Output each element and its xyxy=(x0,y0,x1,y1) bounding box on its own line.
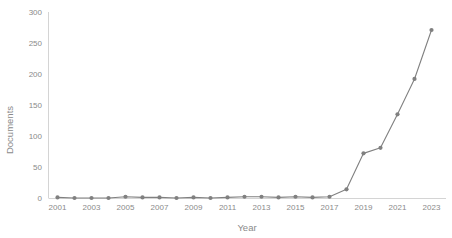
line-chart: 050100150200250300 200120032005200720092… xyxy=(0,0,452,238)
x-tick-label: 2015 xyxy=(287,203,305,212)
data-point xyxy=(140,195,144,199)
y-tick-label: 200 xyxy=(29,70,43,79)
data-point xyxy=(378,146,382,150)
data-point xyxy=(55,195,59,199)
data-point xyxy=(208,196,212,200)
chart-canvas: 050100150200250300 200120032005200720092… xyxy=(0,0,452,238)
x-tick-label: 2007 xyxy=(151,203,169,212)
data-point xyxy=(89,196,93,200)
x-tick-label: 2019 xyxy=(355,203,373,212)
data-point xyxy=(106,196,110,200)
x-tick-label: 2021 xyxy=(389,203,407,212)
data-point xyxy=(361,151,365,155)
data-point xyxy=(293,195,297,199)
data-point xyxy=(327,195,331,199)
x-axis-title: Year xyxy=(237,222,256,233)
x-tick-label: 2009 xyxy=(185,203,203,212)
x-tick-label: 2023 xyxy=(423,203,441,212)
x-tick-label: 2011 xyxy=(219,203,237,212)
data-point xyxy=(412,77,416,81)
data-point xyxy=(395,112,399,116)
y-tick-label: 50 xyxy=(33,163,42,172)
y-axis-title: Documents xyxy=(4,106,15,154)
data-point xyxy=(157,195,161,199)
x-tick-label: 2003 xyxy=(83,203,101,212)
data-point xyxy=(225,195,229,199)
data-point xyxy=(276,195,280,199)
y-tick-label: 150 xyxy=(29,101,43,110)
y-tick-label: 100 xyxy=(29,132,43,141)
data-point xyxy=(242,195,246,199)
data-point xyxy=(310,195,314,199)
y-tick-label: 0 xyxy=(38,194,43,203)
data-point xyxy=(344,187,348,191)
x-tick-label: 2005 xyxy=(117,203,135,212)
data-point xyxy=(259,195,263,199)
data-point xyxy=(429,28,433,32)
data-point xyxy=(191,195,195,199)
y-tick-label: 300 xyxy=(29,8,43,17)
data-point xyxy=(123,195,127,199)
x-tick-label: 2013 xyxy=(253,203,271,212)
x-tick-label: 2017 xyxy=(321,203,339,212)
data-point xyxy=(72,196,76,200)
data-point xyxy=(174,196,178,200)
y-tick-label: 250 xyxy=(29,39,43,48)
x-tick-label: 2001 xyxy=(49,203,67,212)
